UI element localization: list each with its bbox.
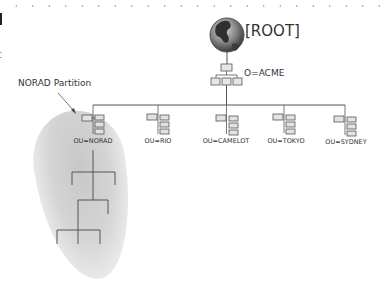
ou-label-norad: OU=NORAD [73,137,112,145]
globe-icon [210,18,244,52]
ou-norad-icon [82,105,104,134]
root-label: [ROOT] [245,22,300,40]
ou-tokyo-icon [273,105,295,134]
ou-label-rio: OU=RIO [145,137,172,145]
ou-sydney-icon [334,105,356,136]
org-tree-icon [211,64,242,85]
partition-pointer-arrow [58,93,76,114]
ou-label-camelot: OU=CAMELOT [203,137,250,145]
ou-rio-icon [147,105,169,134]
norad-subtree [57,150,115,244]
organization-label: O=ACME [244,68,284,78]
partition-label: NORAD Partition [18,78,91,88]
ou-camelot-icon [216,105,238,135]
ou-label-tokyo: OU=TOKYO [267,137,304,145]
ou-label-sydney: OU=SYDNEY [325,138,366,146]
